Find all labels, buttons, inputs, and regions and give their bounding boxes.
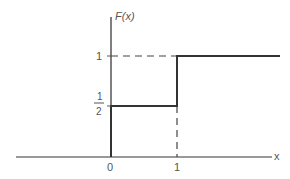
x-axis-label: x	[274, 150, 280, 162]
tick-y-1: 1	[96, 50, 102, 62]
tick-y-half-numerator: 1	[97, 91, 103, 102]
tick-x-1: 1	[174, 161, 180, 173]
tick-x-0: 0	[107, 161, 113, 173]
cdf-step-diagram: F(x) x 0 1 1 1 2	[0, 0, 290, 179]
step-function-line	[111, 56, 280, 157]
tick-y-half-denominator: 2	[96, 106, 102, 117]
y-axis-label: F(x)	[115, 10, 135, 22]
